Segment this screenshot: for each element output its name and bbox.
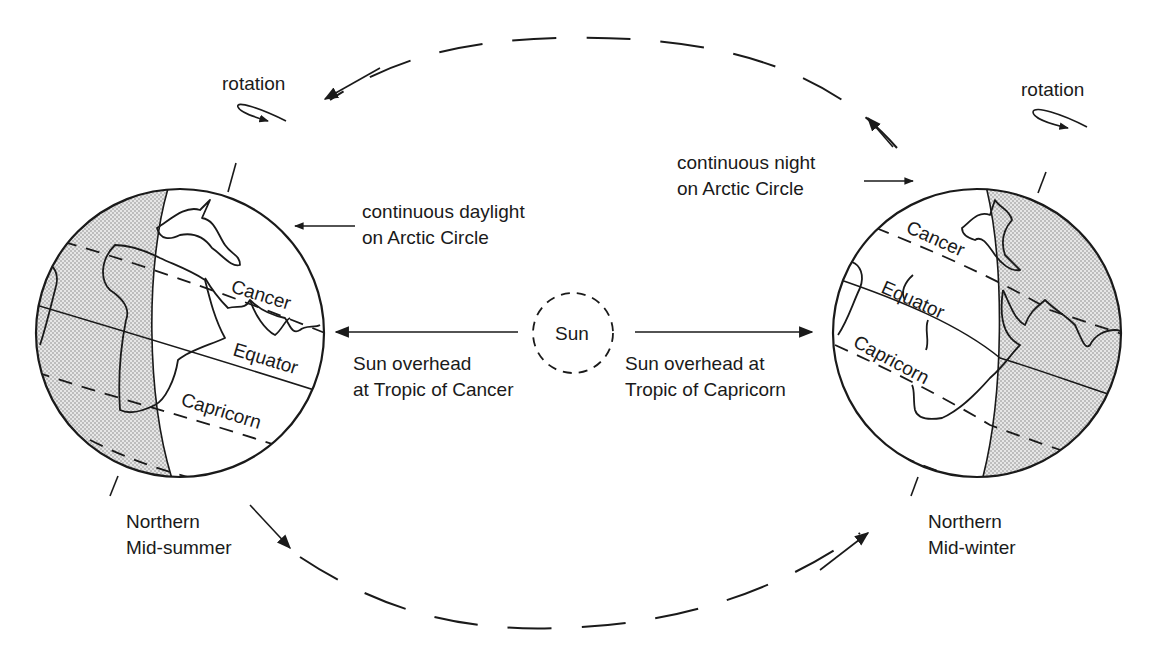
right-rotation-indicator: rotation [1021,79,1087,128]
orbit-arrow-bottom-right [820,533,868,570]
rotation-arrow-icon [1033,110,1087,128]
axis-south [110,476,118,496]
season-right-line1: Northern [928,511,1002,532]
axis-north [228,163,236,192]
left-rotation-indicator: rotation [222,73,286,121]
arctic-daylight-note-line2: on Arctic Circle [362,227,489,248]
seasons-diagram: Cancer Equator Capricorn rotation contin… [0,0,1153,658]
capricorn-label: Capricorn [850,331,933,388]
equator-label: Equator [231,339,301,379]
axis-north [1038,172,1046,193]
left-globe: Cancer Equator Capricorn [0,163,330,496]
season-left-line1: Northern [126,511,200,532]
sun-label: Sun [555,323,589,344]
arctic-daylight-note-line1: continuous daylight [362,201,525,222]
orbit-arrow-bottom-left [250,505,290,548]
sun-overhead-capricorn-line1: Sun overhead at [625,353,765,374]
right-globe: Cancer Equator Capricorn [833,172,1153,496]
equator-label: Equator [878,276,948,323]
arctic-night-note-line1: continuous night [677,152,816,173]
axis-south [911,477,918,496]
rotation-arrow-icon [238,104,286,121]
rotation-label-left: rotation [222,73,285,94]
capricorn-label: Capricorn [179,389,264,433]
season-left-line2: Mid-summer [126,537,232,558]
sun-overhead-cancer-line1: Sun overhead [353,353,471,374]
arctic-night-note-line2: on Arctic Circle [677,178,804,199]
season-right-line2: Mid-winter [928,537,1016,558]
sun-overhead-cancer-line2: at Tropic of Cancer [353,379,514,400]
sun-overhead-capricorn-line2: Tropic of Capricorn [625,379,786,400]
rotation-label-right: rotation [1021,79,1084,100]
orbit-arrow-top-left [325,68,380,99]
orbit-arrow-top-right [868,118,893,147]
cancer-label: Cancer [903,216,968,260]
